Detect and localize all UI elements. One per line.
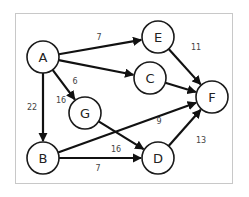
- node-b: B: [27, 142, 59, 174]
- node-label: B: [39, 151, 48, 166]
- edge-c-f: [165, 83, 195, 92]
- node-label: D: [153, 151, 163, 166]
- node-a: A: [27, 41, 59, 73]
- edge-weight-label: 13: [196, 136, 206, 145]
- node-g: G: [69, 97, 101, 129]
- node-label: E: [154, 30, 162, 45]
- node-c: C: [134, 62, 166, 94]
- edge-e-f: [169, 49, 201, 84]
- node-label: A: [39, 50, 48, 65]
- node-e: E: [142, 21, 174, 53]
- node-label: F: [208, 90, 215, 105]
- edge-weight-label: 16: [56, 96, 66, 105]
- node-f: F: [196, 81, 228, 113]
- edge-a-e: [59, 40, 141, 54]
- edge-weight-label: 22: [27, 103, 37, 112]
- arrow-icon: [165, 83, 195, 92]
- node-label: G: [80, 106, 90, 121]
- edge-weight-label: 16: [111, 145, 121, 154]
- arrow-icon: [59, 60, 134, 75]
- arrow-icon: [59, 40, 141, 54]
- edges-layer: [43, 40, 201, 158]
- arrow-icon: [169, 49, 201, 84]
- edge-a-c: [59, 60, 134, 75]
- graph-canvas: 761622116169713 AECGFBD: [0, 0, 249, 197]
- edge-weight-label: 7: [95, 164, 100, 173]
- node-label: C: [145, 71, 154, 86]
- edge-weight-label: 9: [156, 117, 161, 126]
- edge-weight-label: 6: [72, 77, 77, 86]
- edge-weight-label: 11: [191, 43, 201, 52]
- edge-weight-label: 7: [96, 33, 101, 42]
- node-d: D: [142, 142, 174, 174]
